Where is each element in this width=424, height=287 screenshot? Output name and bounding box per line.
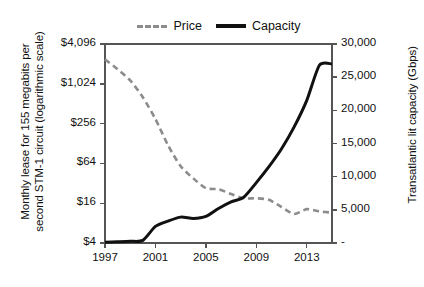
y-axis-right-tick-label: 15,000 [341, 136, 376, 148]
series-line-price [105, 59, 332, 214]
y-axis-left-tick-label: $1,024 [0, 76, 96, 88]
y-axis-left-tick-label: $4 [0, 235, 96, 247]
y-axis-right-tick-label: 20,000 [341, 102, 376, 114]
y-axis-left-tick-label: $4,096 [0, 36, 96, 48]
data-series [105, 59, 332, 242]
x-axis-tick-label: 2013 [281, 251, 333, 263]
y-axis-right-tick-label: 5,000 [341, 202, 370, 214]
axes [100, 44, 337, 248]
chart-container: Monthly lease for 155 megabits per secon… [0, 0, 424, 287]
y-axis-right-tick-label: 25,000 [341, 69, 376, 81]
x-axis-tick-label: 2001 [129, 251, 181, 263]
y-axis-left-tick-label: $16 [0, 195, 96, 207]
y-axis-right-tick-label: - [341, 235, 345, 247]
y-axis-left-tick-label: $256 [0, 116, 96, 128]
y-axis-right-tick-label: 30,000 [341, 36, 376, 48]
x-axis-tick-label: 2005 [180, 251, 232, 263]
y-axis-left-tick-label: $64 [0, 155, 96, 167]
y-axis-right-tick-label: 10,000 [341, 169, 376, 181]
x-axis-tick-label: 1997 [79, 251, 131, 263]
x-axis-tick-label: 2009 [230, 251, 282, 263]
